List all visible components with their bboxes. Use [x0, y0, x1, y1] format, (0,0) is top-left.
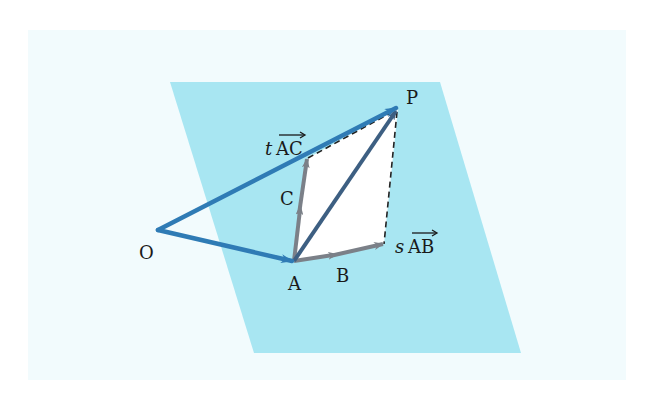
label-tAC-vector: AC	[275, 138, 303, 159]
label-C: C	[280, 188, 294, 209]
label-O: O	[139, 242, 154, 263]
label-B: B	[336, 265, 349, 286]
vector-plane-diagram: O A B C P s AB t AC	[0, 0, 655, 416]
label-A: A	[287, 273, 302, 294]
diagram-canvas: O A B C P s AB t AC	[0, 0, 655, 416]
label-sAB-vector: AB	[407, 236, 434, 257]
label-P: P	[406, 87, 418, 108]
label-tAC-scalar: t	[265, 138, 273, 159]
label-sAB-scalar: s	[395, 236, 404, 257]
